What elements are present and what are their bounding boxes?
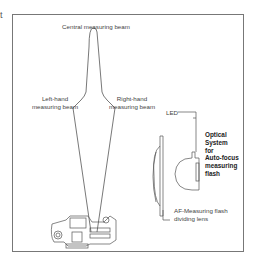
label-optical-line1: Optical [205, 131, 239, 139]
measuring-beams-shape [73, 28, 115, 232]
label-right-beam: Right-hand measuring beam [107, 95, 157, 110]
label-optical-line6: flash [205, 170, 239, 178]
label-central-beam: Central measuring beam [55, 23, 137, 31]
label-left-beam-line2: measuring beam [30, 103, 80, 111]
label-optical-line2: System [205, 139, 239, 147]
label-led: LED [166, 109, 178, 117]
label-optical-line4: Auto-focus [205, 154, 239, 162]
label-left-beam: Left-hand measuring beam [30, 95, 80, 110]
label-left-beam-line1: Left-hand [30, 95, 80, 103]
label-dividing-lens: AF-Measuring flash dividing lens [174, 207, 228, 222]
label-dividing-line1: AF-Measuring flash [174, 207, 228, 215]
label-dividing-line2: dividing lens [174, 215, 228, 223]
label-optical-system: Optical System for Auto-focus measuring … [205, 131, 239, 178]
af-flash-unit [153, 112, 199, 220]
label-right-beam-line1: Right-hand [107, 95, 157, 103]
label-right-beam-line2: measuring beam [107, 103, 157, 111]
label-optical-line5: measuring [205, 162, 239, 170]
label-optical-line3: for [205, 147, 239, 155]
camera-icon [51, 216, 116, 248]
